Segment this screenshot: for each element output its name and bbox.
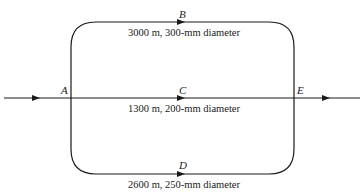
- bottom-flow-arrow-icon: [177, 171, 185, 177]
- outlet-arrow-icon: [322, 95, 330, 101]
- pipe-caption-bottom: 2600 m, 250-mm diameter: [128, 179, 240, 190]
- node-label-d: D: [178, 159, 187, 171]
- inlet-arrow-icon: [32, 95, 40, 101]
- node-label-b: B: [179, 8, 186, 20]
- pipe-network-diagram: B A C E D 3000 m, 300-mm diameter 1300 m…: [0, 0, 363, 195]
- pipe-caption-top: 3000 m, 300-mm diameter: [128, 27, 240, 38]
- pipe-caption-middle: 1300 m, 200-mm diameter: [128, 103, 240, 114]
- node-label-a: A: [60, 84, 68, 96]
- node-label-e: E: [296, 84, 304, 96]
- node-label-c: C: [179, 84, 187, 96]
